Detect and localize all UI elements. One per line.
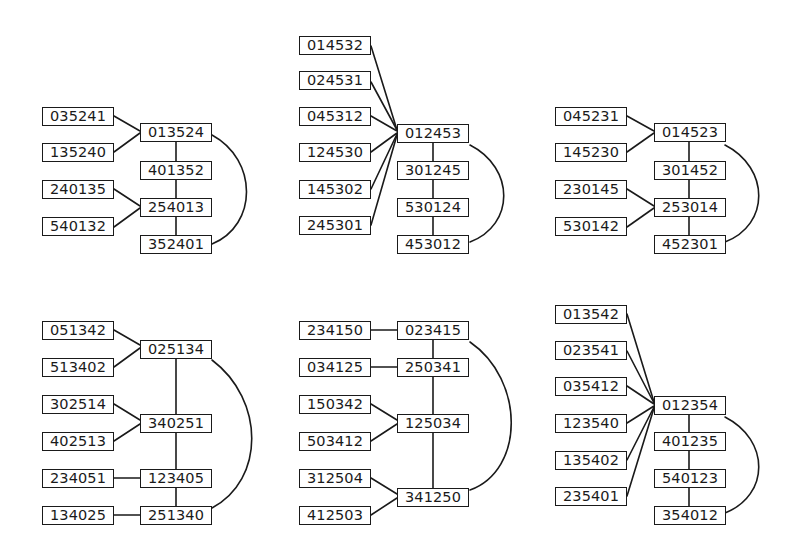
hub-node: 401235 [654,432,726,451]
leaf-node: 150342 [299,395,371,414]
leaf-node: 240135 [42,180,114,199]
hub-node: 530124 [397,198,469,217]
hub-node: 125034 [397,414,469,433]
hub-node: 013524 [140,123,212,142]
leaf-node: 014532 [299,36,371,55]
hub-node: 352401 [140,235,212,254]
leaf-node: 145302 [299,180,371,199]
hub-node: 301245 [397,161,469,180]
leaf-node: 045312 [299,107,371,126]
leaf-node: 034125 [299,358,371,377]
leaf-node: 035412 [555,377,627,396]
hub-node: 251340 [140,506,212,525]
leaf-node: 245301 [299,216,371,235]
hub-node: 123405 [140,469,212,488]
leaf-node: 412503 [299,506,371,525]
hub-node: 253014 [654,198,726,217]
leaf-node: 234051 [42,469,114,488]
leaf-node: 312504 [299,469,371,488]
hub-node: 452301 [654,235,726,254]
leaf-node: 540132 [42,217,114,236]
hub-node: 540123 [654,469,726,488]
leaf-node: 503412 [299,432,371,451]
leaf-node: 134025 [42,506,114,525]
hub-node: 340251 [140,414,212,433]
leaf-node: 035241 [42,107,114,126]
hub-node: 023415 [397,321,469,340]
leaf-node: 013542 [555,305,627,324]
leaf-node: 135240 [42,143,114,162]
leaf-node: 230145 [555,180,627,199]
hub-node: 025134 [140,340,212,359]
leaf-node: 045231 [555,107,627,126]
hub-node: 012354 [654,396,726,415]
diagram-canvas: 035241 135240 240135 540132 013524 40135… [0,0,799,553]
leaf-node: 235401 [555,487,627,506]
hub-node: 012453 [397,124,469,143]
hub-node: 401352 [140,161,212,180]
hub-node: 250341 [397,358,469,377]
leaf-node: 513402 [42,358,114,377]
leaf-node: 051342 [42,321,114,340]
hub-node: 341250 [397,488,469,507]
leaf-node: 145230 [555,143,627,162]
leaf-node: 402513 [42,432,114,451]
hub-node: 453012 [397,235,469,254]
leaf-node: 302514 [42,395,114,414]
leaf-node: 123540 [555,414,627,433]
hub-node: 254013 [140,198,212,217]
leaf-node: 024531 [299,71,371,90]
hub-node: 014523 [654,123,726,142]
leaf-node: 023541 [555,341,627,360]
leaf-node: 124530 [299,143,371,162]
leaf-node: 530142 [555,217,627,236]
hub-node: 354012 [654,506,726,525]
leaf-node: 135402 [555,451,627,470]
hub-node: 301452 [654,161,726,180]
leaf-node: 234150 [299,321,371,340]
